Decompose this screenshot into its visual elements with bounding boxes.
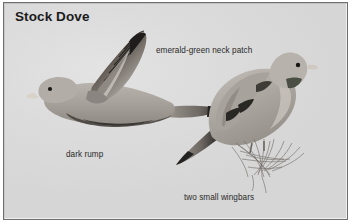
caption-neck-patch: emerald-green neck patch xyxy=(156,46,252,56)
caption-two-small-wingbars: two small wingbars xyxy=(184,193,254,203)
stock-dove-in-flight-illustration xyxy=(4,3,347,219)
neck-patch xyxy=(286,78,302,89)
page-title: Stock Dove xyxy=(15,9,90,24)
plate-frame: Stock Dove emerald-green neck patch dark… xyxy=(3,2,348,220)
illustration-plate: Stock Dove emerald-green neck patch dark… xyxy=(0,0,351,224)
caption-dark-rump: dark rump xyxy=(66,150,103,160)
twig-branch-sketch xyxy=(232,139,304,193)
